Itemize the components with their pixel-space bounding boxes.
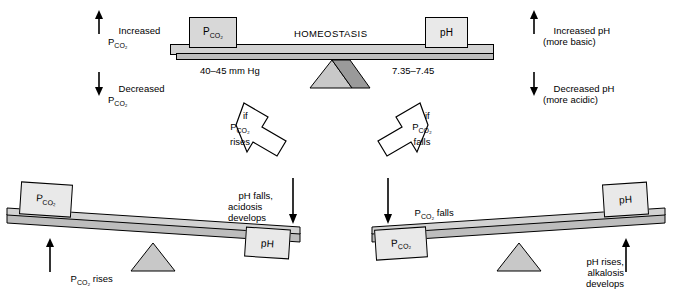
bottom-right-alkalosis-label: pH rises,alkalosisdevelops <box>570 245 624 293</box>
bottom-right-pco2-falls-label: PCO₂ falls <box>404 196 454 233</box>
diagram-canvas: PCO₂ pH HOMEOSTASIS 40–45 mm Hg 7.35–7.4… <box>0 0 673 293</box>
